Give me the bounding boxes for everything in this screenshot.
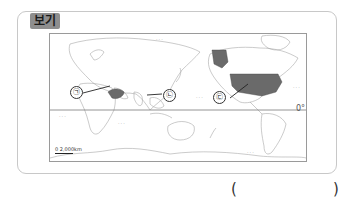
example-tag: 보기	[30, 13, 60, 29]
equator-label: 0°	[296, 104, 305, 113]
marker-c: ㉢	[213, 91, 226, 104]
world-map	[49, 33, 307, 162]
ocean-label: ···	[293, 84, 301, 90]
ocean-label: ···	[196, 94, 204, 100]
ocean-label: ···	[59, 113, 67, 119]
marker-b: ㉡	[163, 89, 176, 102]
marker-a: ㉠	[70, 86, 83, 99]
ocean-label: ···	[118, 120, 126, 126]
ocean-label: ···	[156, 36, 164, 42]
answer-open-paren: (	[231, 180, 237, 198]
answer-close-paren: )	[333, 180, 339, 198]
scale-bar	[55, 153, 73, 154]
scale-label: 0 2,000km	[55, 146, 82, 152]
world-map-graphic	[50, 34, 306, 161]
ocean-label: ···	[247, 149, 255, 155]
answer-field[interactable]	[245, 180, 329, 198]
